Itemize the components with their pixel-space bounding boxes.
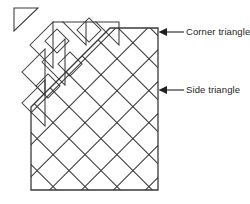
lattice-line [0, 0, 210, 24]
label-corner-triangle: Corner triangle [186, 27, 250, 37]
leader-corner-triangle [159, 28, 185, 36]
leader-arrows [159, 28, 185, 94]
lattice-line [0, 189, 210, 204]
lattice-line [0, 0, 210, 120]
leader-side-triangle [159, 86, 185, 94]
diagram-root: Corner triangle Side triangle [0, 0, 250, 204]
label-side-triangle: Side triangle [186, 85, 240, 95]
side-triangle-detached-2 [63, 22, 86, 45]
side-triangle-detached-6 [22, 80, 45, 126]
detached-diamond-4 [58, 52, 82, 76]
corner-triangle-detached [14, 8, 38, 31]
lattice-line [0, 0, 210, 120]
lattice-line [0, 0, 210, 24]
lattice-line [0, 189, 210, 204]
quilt-top-outline [31, 28, 158, 190]
